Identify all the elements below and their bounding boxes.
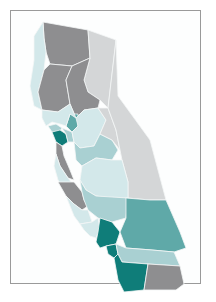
county-region-imperial bbox=[144, 264, 184, 290]
county-region-north-interior bbox=[43, 22, 90, 66]
county-region-san-bernardino bbox=[120, 198, 186, 252]
county-region-los-angeles bbox=[96, 218, 120, 248]
california-map bbox=[0, 0, 216, 302]
